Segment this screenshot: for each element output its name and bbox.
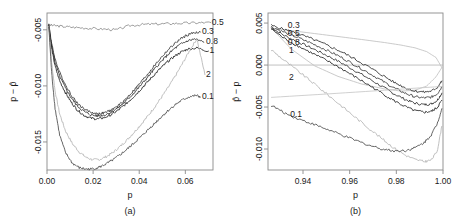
- x-axis-title: p: [127, 190, 132, 200]
- y-axis-title: p̂ − p: [231, 81, 241, 101]
- x-tick-label: 0.96: [341, 176, 358, 186]
- chart-panel-b: 0.940.960.981.000.0050.000-0.005-0.010pp…: [231, 0, 463, 224]
- plot-a-svg: 0.000.020.040.06-0.005-0.010-0.015pp − p…: [0, 0, 232, 224]
- curve-label-0.3: 0.3: [202, 26, 214, 36]
- y-tick-label: -0.010: [254, 137, 264, 161]
- figure-container: 0.000.020.040.06-0.005-0.010-0.015pp − p…: [0, 0, 463, 224]
- curve-label-1: 1: [289, 45, 294, 55]
- curve-label-0.5: 0.5: [212, 17, 224, 27]
- y-tick-label: -0.015: [33, 130, 43, 154]
- series-line-0.5: [48, 22, 211, 31]
- panel-label: (a): [125, 206, 136, 216]
- curve-label-2: 2: [289, 72, 294, 82]
- y-tick-label: 0.005: [254, 12, 264, 34]
- x-tick-label: 0.06: [177, 176, 194, 186]
- x-tick-label: 0.04: [131, 176, 148, 186]
- x-tick-label: 1.00: [435, 176, 452, 186]
- plot-b-svg: 0.940.960.981.000.0050.000-0.005-0.010pp…: [231, 0, 463, 224]
- x-tick-label: 0.00: [39, 176, 56, 186]
- y-axis-title: p − p̂: [8, 81, 18, 101]
- y-tick-label: -0.010: [33, 74, 43, 98]
- x-tick-label: 0.94: [295, 176, 312, 186]
- curve-label-0.1: 0.1: [290, 109, 302, 119]
- x-tick-label: 0.02: [85, 176, 102, 186]
- series-line-2: [49, 26, 205, 160]
- chart-panel-a: 0.000.020.040.06-0.005-0.010-0.015pp − p…: [0, 0, 232, 224]
- y-tick-label: -0.005: [33, 18, 43, 42]
- x-tick-label: 0.98: [388, 176, 405, 186]
- curve-label-1: 1: [210, 45, 215, 55]
- x-axis-title: p: [353, 190, 358, 200]
- series-line-0.3: [49, 26, 200, 115]
- series-line-2: [272, 51, 442, 163]
- panel-label: (b): [350, 206, 361, 216]
- curve-label-0.1: 0.1: [202, 91, 214, 101]
- y-tick-label: -0.005: [254, 95, 264, 119]
- series-line-1: [49, 25, 209, 120]
- curve-label-2: 2: [206, 69, 211, 79]
- y-tick-label: 0.000: [254, 54, 264, 76]
